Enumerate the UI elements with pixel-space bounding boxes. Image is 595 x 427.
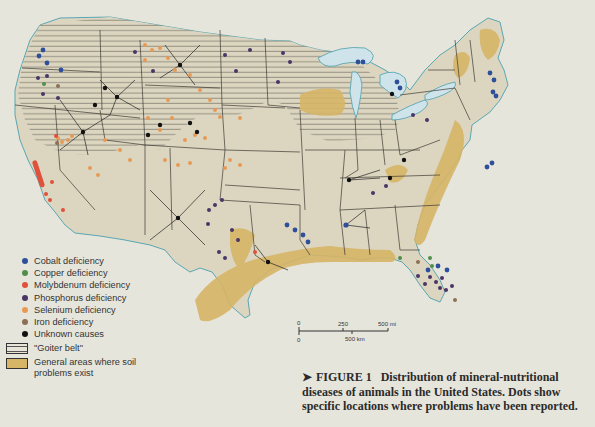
scale-mi-end: 500 mi [378,321,396,327]
legend-label: Cobalt deficiency [34,255,104,267]
scale-km-end: 500 km [345,336,365,342]
legend-label: General areas where soil problems exist [34,357,144,379]
phosphorus-dot-icon [22,295,28,301]
caption-label: FIGURE 1 [316,370,372,384]
caption-arrow-icon: ➤ [302,370,312,384]
legend-item-iron: Iron deficiency [6,316,144,328]
scale-km-zero: 0 [297,337,301,343]
legend-label: Copper deficiency [34,267,108,279]
legend-item-molybdenum: Molybdenum deficiency [6,279,144,291]
cobalt-dot-icon [22,258,28,264]
iron-dot-icon [22,319,28,325]
scale-bar: 0 250 500 mi 0 500 km [295,318,415,348]
legend-label: Iron deficiency [34,316,93,328]
legend-item-soil-problems: General areas where soil problems exist [6,357,144,379]
legend-label: "Goiter belt" [34,342,83,354]
copper-dot-icon [22,270,28,276]
legend-item-goiter-belt: "Goiter belt" [6,342,144,354]
hatch-swatch-icon [6,343,28,354]
legend-label: Selenium deficiency [34,304,116,316]
unknown-dot-icon [22,331,28,337]
legend-item-selenium: Selenium deficiency [6,304,144,316]
legend-item-copper: Copper deficiency [6,267,144,279]
molybdenum-dot-icon [22,282,28,288]
soil-swatch-icon [6,358,28,369]
legend-label: Phosphorus deficiency [34,292,126,304]
scale-mi-mid: 250 [338,321,349,327]
map-legend: Cobalt deficiency Copper deficiency Moly… [6,255,144,379]
legend-item-unknown: Unknown causes [6,328,144,340]
legend-label: Unknown causes [34,328,104,340]
figure-caption: ➤FIGURE 1 Distribution of mineral-nutrit… [302,370,592,414]
legend-item-phosphorus: Phosphorus deficiency [6,292,144,304]
legend-label: Molybdenum deficiency [34,279,130,291]
scale-mi-zero: 0 [297,320,301,326]
legend-item-cobalt: Cobalt deficiency [6,255,144,267]
selenium-dot-icon [22,307,28,313]
